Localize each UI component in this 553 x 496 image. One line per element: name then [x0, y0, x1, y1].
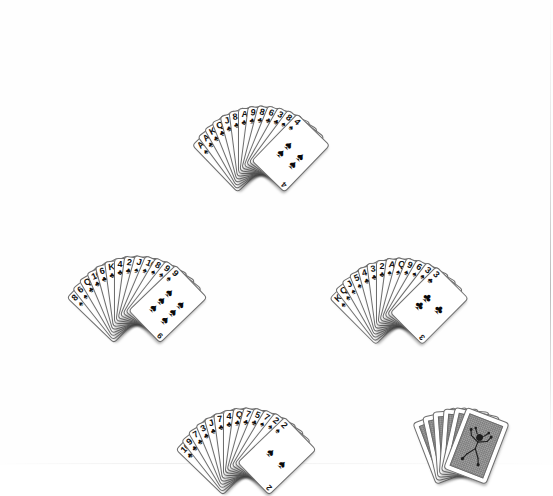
scan-edge-artifact-right: [550, 0, 551, 465]
jester-figure-icon: [457, 422, 496, 471]
card-fan-north: A♠A♣K♣Q♣J♣8♣A♣9♣8♣6♣3♣8♠4♠♠♠♠♠4: [168, 0, 354, 108]
card-rank-corner-bottom: 4: [280, 180, 289, 189]
hand-west[interactable]: 8♠6♠Q♣10♣6♣K♣4♣2♣J♠10♠8♠9♠9♠♠♠♠♠♠♠9: [42, 150, 232, 258]
card-rank-corner-bottom: 9: [156, 331, 165, 340]
hand-north[interactable]: A♠A♣K♣Q♣J♣8♣A♣9♣8♣6♣3♣8♠4♠♠♠♠♠4: [168, 0, 354, 108]
card-rank-corner-bottom: 3: [418, 332, 427, 341]
card-fan-east: K♠Q♠J♠5♠4♣3♣2♣A♠Q♠9♠6♠3♠3♣♣♣♣3: [306, 152, 492, 260]
card-rank-corner-bottom: 2: [265, 483, 274, 492]
card-fan-west: 8♠6♠Q♣10♣6♣K♣4♣2♣J♠10♠8♠9♠9♠♠♠♠♠♠♠9: [42, 150, 232, 258]
hand-east[interactable]: K♠Q♠J♠5♠4♣3♣2♣A♠Q♠9♠6♠3♠3♣♣♣♣3: [306, 152, 492, 260]
